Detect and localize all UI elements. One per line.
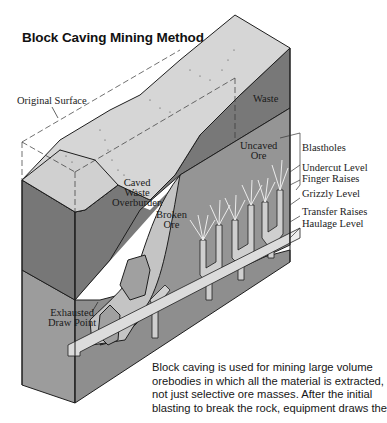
caption: Block caving is used for mining large vo… bbox=[152, 361, 382, 415]
level-haulage: Haulage Level bbox=[302, 219, 364, 229]
label-caved-waste-overburden: Caved Waste Overburden bbox=[112, 178, 162, 208]
level-undercut: Undercut Level bbox=[302, 163, 368, 173]
label-broken-ore: Broken Ore bbox=[156, 210, 187, 230]
haulage-end bbox=[290, 228, 300, 243]
original-surface-leader bbox=[52, 107, 58, 118]
level-finger-raises: Finger Raises bbox=[302, 174, 359, 184]
label-original-surface: Original Surface bbox=[17, 96, 87, 106]
caption-line: not just selective ore masses. After the… bbox=[152, 388, 382, 402]
caption-line: orebodies in which all the material is e… bbox=[152, 375, 382, 389]
label-uncaved-ore: Uncaved Ore bbox=[240, 141, 277, 161]
caption-line: blasting to break the rock, equipment dr… bbox=[152, 402, 382, 416]
level-blastholes: Blastholes bbox=[302, 143, 346, 153]
level-grizzly: Grizzly Level bbox=[302, 189, 360, 199]
label-waste: Waste bbox=[253, 94, 278, 104]
label-exhausted-draw-point: Exhausted Draw Point bbox=[48, 308, 96, 328]
caption-line: Block caving is used for mining large vo… bbox=[152, 361, 382, 375]
level-transfer-raises: Transfer Raises bbox=[302, 207, 367, 217]
